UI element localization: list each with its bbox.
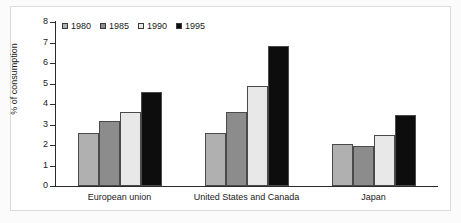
plot-area xyxy=(56,22,437,186)
y-axis-tick-mark xyxy=(50,22,55,23)
y-axis-tick-mark xyxy=(50,125,55,126)
y-axis-tick-label: 0 xyxy=(8,181,48,190)
y-axis-tick-mark xyxy=(50,104,55,105)
chart-figure: 876543210 % of consumption 1980198519901… xyxy=(0,0,461,223)
y-axis-title: % of consumption xyxy=(9,19,19,139)
bar-group xyxy=(78,22,162,186)
bar-1990 xyxy=(374,135,395,186)
bar-1990 xyxy=(247,86,268,186)
y-axis-tick-mark xyxy=(50,186,55,187)
y-axis-tick-label: 1 xyxy=(8,161,48,170)
bar-1980 xyxy=(332,144,353,186)
x-axis-category-label: United States and Canada xyxy=(183,192,310,202)
bar-1985 xyxy=(353,146,374,186)
bar-1990 xyxy=(120,112,141,186)
y-axis-tick-mark xyxy=(50,63,55,64)
bar-group xyxy=(205,22,289,186)
x-axis-category-label: European union xyxy=(56,192,183,202)
bar-1985 xyxy=(99,121,120,186)
x-axis-line xyxy=(55,186,438,187)
y-axis-tick-mark xyxy=(50,166,55,167)
bar-1995 xyxy=(395,115,416,186)
y-axis-tick-mark xyxy=(50,84,55,85)
bar-1980 xyxy=(205,133,226,186)
x-axis-category-label: Japan xyxy=(310,192,437,202)
y-axis-tick-mark xyxy=(50,145,55,146)
bar-1995 xyxy=(141,92,162,186)
bar-1985 xyxy=(226,112,247,186)
y-axis-tick-labels: 876543210 xyxy=(0,0,48,223)
y-axis-tick-label: 2 xyxy=(8,140,48,149)
y-axis-tick-mark xyxy=(50,43,55,44)
bar-1995 xyxy=(268,46,289,186)
bar-group xyxy=(332,22,416,186)
bar-1980 xyxy=(78,133,99,186)
